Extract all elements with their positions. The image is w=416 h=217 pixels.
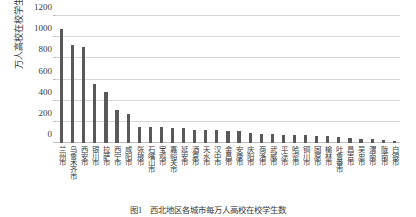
x-axis-tick-label: 陇南市: [379, 145, 387, 165]
bar-slot: [222, 16, 233, 143]
x-label-slot: 延安市: [178, 145, 189, 195]
bar-slot: [322, 16, 333, 143]
x-label-slot: 张掖市: [134, 145, 145, 195]
x-label-slot: 白银市: [389, 145, 400, 195]
bar-slot: [367, 16, 378, 143]
bar-slot: [300, 16, 311, 143]
bar: [371, 139, 374, 143]
x-axis-tick-label: 武威市: [269, 145, 277, 165]
x-axis-tick-label: 吐鲁番市: [335, 145, 343, 172]
x-axis-tick-label: 庆阳市: [246, 145, 254, 165]
x-axis-tick-label: 西宁市: [113, 145, 121, 165]
x-label-slot: 拉萨市: [100, 145, 111, 195]
x-axis-tick-label: 宝鸡市: [158, 145, 166, 165]
x-axis-tick-label: 西安市: [80, 145, 88, 165]
bar-slot: [356, 16, 367, 143]
x-axis-labels: 兰州市乌鲁木齐市西安市银川市拉萨市西宁市咸阳市张掖市石嘴山市宝鸡市嘉峪关市延安市…: [56, 145, 400, 195]
bar: [293, 135, 296, 143]
x-axis-tick-label: 酒泉市: [191, 145, 199, 165]
bar: [104, 92, 107, 143]
bar: [315, 136, 318, 143]
bar-slot: [123, 16, 134, 143]
x-label-slot: 吴忠市: [356, 145, 367, 195]
x-label-slot: 陇南市: [378, 145, 389, 195]
bar: [249, 133, 252, 143]
x-label-slot: 庆阳市: [245, 145, 256, 195]
bar-slot: [111, 16, 122, 143]
x-label-slot: 酒泉市: [189, 145, 200, 195]
x-label-slot: 天水市: [200, 145, 211, 195]
bar: [171, 128, 174, 143]
x-label-slot: 渭南市: [367, 145, 378, 195]
bar: [271, 134, 274, 143]
x-label-slot: 乌鲁木齐市: [67, 145, 78, 195]
x-label-slot: 西安市: [78, 145, 89, 195]
x-axis-tick-label: 固原市: [313, 145, 321, 165]
bar: [304, 135, 307, 143]
bar: [138, 127, 141, 143]
bar-slot: [256, 16, 267, 143]
y-axis-tick-label: 200: [39, 108, 53, 117]
bar: [382, 140, 385, 143]
bar-slot: [289, 16, 300, 143]
bar: [359, 139, 362, 143]
x-axis-tick-label: 咸阳市: [124, 145, 132, 165]
x-axis-tick-label: 吴忠市: [357, 145, 365, 165]
x-label-slot: 商洛市: [256, 145, 267, 195]
bar-slot: [245, 16, 256, 143]
x-label-slot: 安康市: [234, 145, 245, 195]
bar-slot: [56, 16, 67, 143]
x-label-slot: 平凉市: [278, 145, 289, 195]
x-label-slot: 铜川市: [300, 145, 311, 195]
bar: [260, 134, 263, 143]
x-axis-tick-label: 哈密市: [291, 145, 299, 165]
x-label-slot: 哈密市: [289, 145, 300, 195]
x-label-slot: 武威市: [267, 145, 278, 195]
x-axis-tick-label: 铜川市: [302, 145, 310, 165]
bar-slot: [78, 16, 89, 143]
x-axis-tick-label: 延安市: [180, 145, 188, 165]
x-label-slot: 金昌市: [222, 145, 233, 195]
x-label-slot: 咸阳市: [123, 145, 134, 195]
bar: [282, 135, 285, 143]
plot-area: 020040060080010001200: [56, 16, 400, 143]
x-axis-tick-label: 张掖市: [135, 145, 143, 165]
x-axis-tick-label: 白银市: [391, 145, 399, 165]
bar-slot: [189, 16, 200, 143]
bar-slot: [89, 16, 100, 143]
x-axis-tick-label: 嘉峪关市: [169, 145, 177, 172]
y-axis-tick-label: 0: [48, 130, 53, 139]
x-label-slot: 固原市: [311, 145, 322, 195]
bar-slot: [311, 16, 322, 143]
bar-slot: [167, 16, 178, 143]
bar: [326, 136, 329, 143]
bar: [204, 130, 207, 143]
bar-slot: [278, 16, 289, 143]
x-axis-tick-label: 榆林市: [324, 145, 332, 165]
bar: [348, 138, 351, 143]
bar-slot: [267, 16, 278, 143]
x-axis-tick-label: 安康市: [235, 145, 243, 165]
figure-caption: 图1 西北地区各城市每万人高校在校学生数: [0, 203, 416, 215]
y-axis-tick-label: 800: [39, 45, 53, 54]
bar-slot: [134, 16, 145, 143]
bar-slot: [100, 16, 111, 143]
x-axis-tick-label: 昌吉市: [346, 145, 354, 165]
x-label-slot: 嘉峪关市: [167, 145, 178, 195]
bar-slot: [333, 16, 344, 143]
bar: [337, 137, 340, 143]
y-axis-tick-label: 600: [39, 66, 53, 75]
x-label-slot: 汉中市: [211, 145, 222, 195]
bar: [149, 127, 152, 143]
bar: [60, 29, 63, 143]
bar-slot: [234, 16, 245, 143]
bar: [237, 131, 240, 143]
bar-slot: [200, 16, 211, 143]
x-label-slot: 银川市: [89, 145, 100, 195]
bar-slot: [145, 16, 156, 143]
bar-slot: [344, 16, 355, 143]
x-label-slot: 宝鸡市: [156, 145, 167, 195]
bar: [127, 114, 130, 143]
bar: [226, 131, 229, 143]
x-label-slot: 昌吉市: [344, 145, 355, 195]
